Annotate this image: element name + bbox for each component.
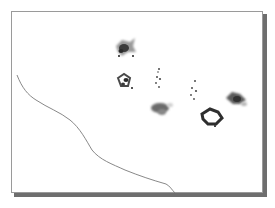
grass-stroke — [17, 75, 175, 193]
fry-cluster-middle — [155, 68, 161, 88]
goldfish-large-top — [116, 38, 136, 57]
ink-painting — [0, 0, 275, 208]
goldfish-center — [151, 103, 173, 115]
fry-cluster-right — [190, 80, 197, 100]
goldfish-small-left — [118, 74, 133, 89]
goldfish-far-right — [226, 92, 247, 106]
goldfish-right-lower — [202, 109, 222, 127]
